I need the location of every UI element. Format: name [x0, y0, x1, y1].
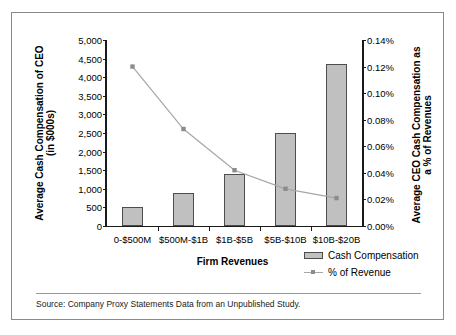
x-axis-tick-mark: [209, 226, 210, 231]
y-axis-right-tick-label: 0.10%: [367, 88, 407, 99]
legend-line-swatch-icon: [304, 269, 323, 276]
y-axis-left-tick-label: 500: [62, 202, 102, 213]
y-axis-left-tick-label: 3,000: [62, 109, 102, 120]
y-axis-right-tick-label: 0.14%: [367, 35, 407, 46]
line-marker-3: [283, 187, 287, 191]
y-axis-left-tick-label: 1,000: [62, 183, 102, 194]
source-note: Source: Company Proxy Statements Data fr…: [36, 299, 300, 309]
y-axis-left-tick-label: 4,500: [62, 53, 102, 64]
x-axis-tick-label: $500M-$1B: [159, 234, 208, 245]
y-axis-left-tick-label: 0: [62, 221, 102, 232]
x-axis-tick-mark: [260, 226, 261, 231]
line-series-svg: [107, 40, 362, 226]
x-axis-tick-label: $5B-$10B: [264, 234, 306, 245]
line-series-layer: [107, 40, 362, 226]
y-axis-right-tick-mark: [362, 226, 366, 227]
x-axis-tick-label: 0-$500M: [114, 234, 152, 245]
line-path: [133, 67, 337, 199]
chart-legend: Cash Compensation % of Revenue: [304, 247, 439, 281]
y-axis-left-tick-label: 2,500: [62, 128, 102, 139]
y-axis-right-title-line2: a % of Revenues: [422, 47, 434, 224]
y-axis-right-tick-mark: [362, 173, 366, 174]
y-axis-right-tick-mark: [362, 67, 366, 68]
y-axis-right-tick-mark: [362, 120, 366, 121]
y-axis-right-tick-mark: [362, 199, 366, 200]
y-axis-left-tick-label: 3,500: [62, 90, 102, 101]
x-axis-tick-mark: [311, 226, 312, 231]
legend-label-cash-compensation: Cash Compensation: [328, 250, 419, 261]
legend-item-percent-of-revenue: % of Revenue: [304, 264, 439, 281]
legend-bar-swatch-icon: [304, 252, 323, 259]
y-axis-right-tick-label: 0.00%: [367, 221, 407, 232]
y-axis-left-tick-label: 4,000: [62, 72, 102, 83]
plot-area: 05001,0001,5002,0002,5003,0003,5004,0004…: [105, 40, 364, 227]
y-axis-right-title: Average CEO Cash Compensation as a % of …: [410, 40, 434, 230]
figure-frame: Average Cash Compensation of CEO (in $00…: [11, 12, 444, 320]
y-axis-right-tick-label: 0.04%: [367, 167, 407, 178]
y-axis-right-tick-mark: [362, 93, 366, 94]
y-axis-left-title-line2: (in $000s): [45, 45, 57, 220]
legend-label-percent-of-revenue: % of Revenue: [328, 267, 391, 278]
line-marker-4: [334, 196, 338, 200]
y-axis-left-tick-label: 2,000: [62, 146, 102, 157]
y-axis-right-tick-mark: [362, 40, 366, 41]
y-axis-left-tick-mark: [103, 226, 107, 227]
x-axis-tick-mark: [158, 226, 159, 231]
y-axis-right-tick-label: 0.08%: [367, 114, 407, 125]
line-marker-0: [130, 64, 134, 68]
legend-item-cash-compensation: Cash Compensation: [304, 247, 439, 264]
y-axis-right-tick-label: 0.06%: [367, 141, 407, 152]
x-axis-tick-label: $10B-$20B: [313, 234, 361, 245]
source-divider: [36, 293, 421, 294]
line-marker-1: [181, 127, 185, 131]
y-axis-right-tick-label: 0.02%: [367, 194, 407, 205]
y-axis-left-tick-label: 1,500: [62, 165, 102, 176]
x-axis-tick-label: $1B-$5B: [216, 234, 253, 245]
line-marker-2: [232, 168, 236, 172]
y-axis-left-tick-label: 5,000: [62, 35, 102, 46]
y-axis-right-tick-label: 0.12%: [367, 61, 407, 72]
y-axis-right-title-line1: Average CEO Cash Compensation as: [411, 47, 423, 224]
y-axis-right-tick-mark: [362, 146, 366, 147]
y-axis-left-title-line1: Average Cash Compensation of CEO: [34, 45, 46, 220]
y-axis-left-title: Average Cash Compensation of CEO (in $00…: [34, 40, 56, 226]
chart-area: Average Cash Compensation of CEO (in $00…: [12, 13, 445, 321]
